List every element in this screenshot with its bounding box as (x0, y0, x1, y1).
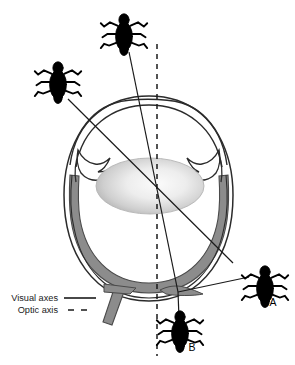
legend: Visual axes Optic axis (11, 293, 96, 315)
bug-right-A (242, 266, 288, 308)
label-A: A (269, 296, 276, 308)
legend-label-visual-axes: Visual axes (11, 293, 58, 303)
legend-item-visual-axes: Visual axes (11, 293, 96, 303)
eye-diagram: A B Visual axes Optic axis (0, 0, 295, 365)
figure-canvas: A B Visual axes Optic axis (0, 0, 295, 365)
legend-item-optic-axis: Optic axis (18, 305, 92, 315)
bug-bottom-B (157, 311, 203, 353)
bug-left (35, 62, 81, 104)
optic-nerve (103, 289, 125, 325)
bug-top (101, 14, 147, 56)
legend-label-optic-axis: Optic axis (18, 305, 59, 315)
lens (96, 158, 204, 214)
label-B: B (188, 341, 195, 353)
eye-globe (64, 96, 233, 325)
